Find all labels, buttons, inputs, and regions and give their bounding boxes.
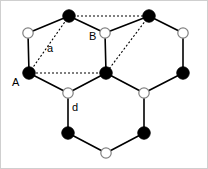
filled-atom-node	[138, 127, 150, 139]
label-a: a	[47, 43, 53, 54]
filled-atom-node	[23, 67, 35, 79]
filled-atom-node	[63, 10, 75, 22]
filled-atom-node	[100, 67, 112, 79]
label-B: B	[89, 31, 96, 42]
lattice-figure: ABad	[0, 0, 208, 169]
open-atom-node	[139, 88, 149, 98]
lattice-bond	[105, 16, 149, 33]
open-atom-node	[178, 28, 188, 38]
open-atom-node	[63, 88, 73, 98]
lattice-canvas	[1, 1, 208, 169]
label-d: d	[72, 102, 78, 113]
filled-atom-node	[177, 67, 189, 79]
filled-atom-node	[143, 10, 155, 22]
open-atom-node	[101, 148, 111, 158]
open-atom-node	[100, 28, 110, 38]
open-atom-node	[23, 28, 33, 38]
filled-atom-node	[62, 127, 74, 139]
label-A: A	[12, 77, 19, 88]
